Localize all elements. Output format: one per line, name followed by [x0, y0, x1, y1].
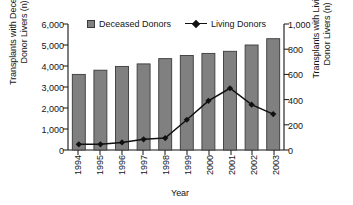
legend-item-deceased-donors: Deceased Donors [87, 19, 171, 29]
bar-2001 [224, 51, 237, 150]
living-donors-polyline [79, 88, 273, 144]
bar-1995 [94, 70, 107, 150]
bar-2002 [245, 45, 258, 150]
legend-label-deceased-donors: Deceased Donors [99, 19, 171, 29]
plot-area [0, 0, 353, 205]
chart-legend: Deceased Donors Living Donors [85, 17, 268, 30]
x-axis-ticks [78, 150, 274, 155]
legend-label-living-donors: Living Donors [211, 19, 266, 29]
chart-figure: Transplants with Deceased Donor Livers (… [0, 0, 353, 205]
legend-line-marker-icon [185, 20, 207, 28]
bar-series-deceased-donors [72, 39, 279, 150]
bar-1996 [116, 66, 129, 150]
right-axis-ticks [284, 24, 289, 150]
legend-item-living-donors: Living Donors [185, 19, 266, 29]
bar-1994 [72, 74, 85, 150]
bar-2003 [267, 39, 280, 150]
bar-1999 [180, 56, 193, 151]
legend-bar-swatch-icon [87, 20, 95, 28]
left-axis-ticks [63, 24, 68, 150]
